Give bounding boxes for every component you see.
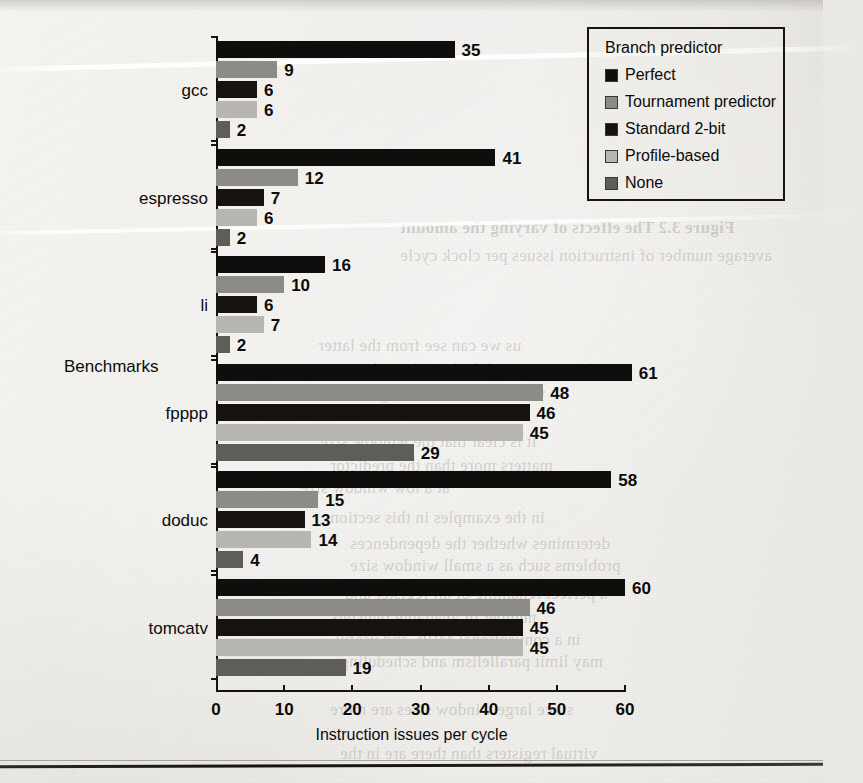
legend-swatch-icon [605, 123, 618, 136]
x-axis-label: Instruction issues per cycle [0, 726, 823, 744]
bar-value-label: 45 [530, 640, 549, 657]
bar-tomcatv-profile-based [216, 639, 523, 656]
bar-value-label: 45 [530, 425, 549, 442]
x-axis-tick-label: 10 [259, 701, 309, 718]
bar-value-label: 58 [618, 472, 637, 489]
bar-value-label: 15 [325, 492, 344, 509]
benchmark-label-tomcatv: tomcatv [98, 620, 208, 637]
bar-value-label: 9 [284, 62, 293, 79]
y-axis-group-tick [211, 144, 217, 146]
bar-li-standard-2-bit [216, 296, 257, 313]
bar-value-label: 46 [537, 600, 556, 617]
bar-value-label: 6 [264, 82, 273, 99]
legend-item-label: None [625, 174, 663, 192]
legend-swatch-icon [605, 96, 618, 109]
bar-espresso-tournament-predictor [216, 169, 298, 186]
y-axis-group-tick [211, 140, 217, 142]
bar-li-tournament-predictor [216, 276, 284, 293]
bar-fpppp-none [216, 444, 414, 461]
y-axis-group-tick [211, 36, 217, 38]
bar-fpppp-perfect [216, 364, 632, 381]
legend-item-label: Profile-based [625, 147, 719, 165]
bar-li-perfect [216, 256, 325, 273]
bar-fpppp-profile-based [216, 424, 523, 441]
bar-gcc-tournament-predictor [216, 61, 277, 78]
bar-value-label: 2 [237, 337, 246, 354]
bar-value-label: 7 [271, 190, 280, 207]
legend-swatch-icon [605, 177, 618, 190]
x-axis-tick [556, 685, 558, 692]
bar-value-label: 10 [291, 277, 310, 294]
y-axis-group-tick [211, 355, 217, 357]
x-axis-tick [488, 685, 490, 692]
bar-li-profile-based [216, 316, 264, 333]
y-axis-group-tick [211, 466, 217, 468]
y-axis-group-tick [211, 463, 217, 465]
x-axis-tick [283, 685, 285, 692]
y-axis-group-tick [211, 359, 217, 361]
bar-tomcatv-perfect [216, 579, 625, 596]
x-axis-tick-label: 40 [464, 701, 514, 718]
y-axis-label: Benchmarks [64, 358, 158, 375]
y-axis-group-tick [211, 574, 217, 576]
bar-value-label: 45 [530, 620, 549, 637]
bar-li-none [216, 336, 230, 353]
bar-value-label: 60 [632, 580, 651, 597]
bar-value-label: 6 [264, 210, 273, 227]
x-axis-tick-label: 20 [327, 701, 377, 718]
benchmark-label-espresso: espresso [98, 190, 208, 207]
bar-tomcatv-standard-2-bit [216, 619, 523, 636]
y-axis-group-tick [211, 251, 217, 253]
bar-doduc-perfect [216, 471, 611, 488]
bar-tomcatv-tournament-predictor [216, 599, 530, 616]
legend-item-label: Standard 2-bit [625, 120, 726, 138]
bar-gcc-perfect [216, 41, 455, 58]
bar-value-label: 2 [237, 122, 246, 139]
bar-value-label: 16 [332, 257, 351, 274]
bar-tomcatv-none [216, 659, 346, 676]
bar-value-label: 4 [250, 552, 259, 569]
bar-espresso-perfect [216, 149, 495, 166]
y-axis-group-tick [211, 678, 217, 680]
legend-swatch-icon [605, 150, 618, 163]
bar-gcc-none [216, 121, 230, 138]
bar-value-label: 48 [550, 385, 569, 402]
bar-doduc-standard-2-bit [216, 511, 305, 528]
bar-value-label: 14 [318, 532, 337, 549]
legend-item-label: Tournament predictor [625, 93, 776, 111]
bar-value-label: 29 [421, 445, 440, 462]
bar-doduc-tournament-predictor [216, 491, 318, 508]
x-axis-tick-label: 60 [600, 701, 650, 718]
bar-value-label: 7 [271, 317, 280, 334]
bar-value-label: 13 [312, 512, 331, 529]
y-axis-group-tick [211, 248, 217, 250]
bar-fpppp-tournament-predictor [216, 384, 543, 401]
benchmark-label-li: li [98, 297, 208, 314]
bar-gcc-standard-2-bit [216, 81, 257, 98]
x-axis-tick [351, 685, 353, 692]
legend-swatch-icon [605, 69, 618, 82]
benchmark-label-doduc: doduc [98, 512, 208, 529]
bar-value-label: 35 [462, 42, 481, 59]
bar-doduc-profile-based [216, 531, 311, 548]
legend-item-label: Perfect [625, 66, 676, 84]
page-footer-rule-hairline [0, 760, 823, 761]
bar-value-label: 19 [353, 660, 372, 677]
benchmark-label-fpppp: fpppp [98, 405, 208, 422]
bar-espresso-profile-based [216, 209, 257, 226]
x-axis-tick-label: 0 [191, 701, 241, 718]
bar-value-label: 46 [537, 405, 556, 422]
y-axis-group-tick [211, 570, 217, 572]
bar-value-label: 2 [237, 230, 246, 247]
x-axis-tick [420, 685, 422, 692]
legend-box: Branch predictor PerfectTournament predi… [587, 27, 785, 201]
x-axis-tick-label: 30 [396, 701, 446, 718]
x-axis-tick [624, 685, 626, 692]
x-axis-tick-label: 50 [532, 701, 582, 718]
bar-espresso-standard-2-bit [216, 189, 264, 206]
bar-value-label: 61 [639, 365, 658, 382]
bar-value-label: 12 [305, 170, 324, 187]
bar-espresso-none [216, 229, 230, 246]
bar-fpppp-standard-2-bit [216, 404, 530, 421]
bar-value-label: 6 [264, 297, 273, 314]
